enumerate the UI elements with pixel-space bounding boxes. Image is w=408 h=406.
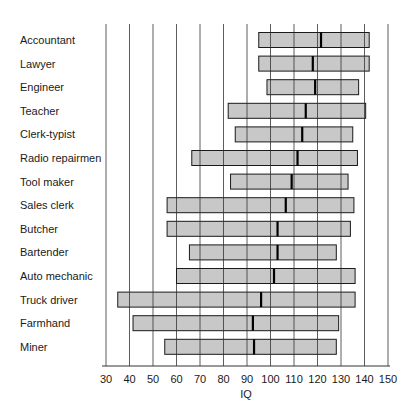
- range-bar: [133, 316, 339, 331]
- range-bar: [177, 269, 356, 284]
- range-bar: [167, 198, 354, 213]
- range-bar: [231, 174, 348, 189]
- iq-occupation-range-chart: AccountantLawyerEngineerTeacherClerk-typ…: [0, 0, 408, 406]
- category-label: Sales clerk: [20, 198, 74, 212]
- category-label: Auto mechanic: [20, 269, 93, 283]
- category-label: Truck driver: [20, 293, 78, 307]
- range-bar: [259, 56, 369, 71]
- category-label: Butcher: [20, 222, 58, 236]
- category-label: Radio repairmen: [20, 151, 101, 165]
- category-label: Clerk-typist: [20, 127, 75, 141]
- category-label: Bartender: [20, 245, 68, 259]
- x-axis-label: IQ: [231, 388, 261, 400]
- category-label: Engineer: [20, 80, 64, 94]
- range-bar: [259, 33, 369, 48]
- category-label: Lawyer: [20, 57, 55, 71]
- range-bar: [167, 221, 350, 236]
- range-bar: [228, 103, 365, 118]
- x-tick-label: 150: [373, 373, 403, 385]
- category-label: Farmhand: [20, 316, 70, 330]
- range-bar: [267, 80, 359, 95]
- category-label: Accountant: [20, 33, 75, 47]
- category-label: Tool maker: [20, 175, 74, 189]
- range-bar: [165, 339, 337, 354]
- category-label: Miner: [20, 340, 48, 354]
- range-bar: [192, 151, 358, 166]
- range-bar: [189, 245, 336, 260]
- category-label: Teacher: [20, 104, 59, 118]
